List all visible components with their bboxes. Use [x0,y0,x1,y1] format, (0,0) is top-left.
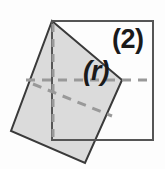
rotated-square-shape [11,21,122,163]
radius-symbol-label: (r) [83,58,109,85]
geometry-figure: (2) (r) [0,0,165,169]
step-number-label: (2) [112,26,144,53]
